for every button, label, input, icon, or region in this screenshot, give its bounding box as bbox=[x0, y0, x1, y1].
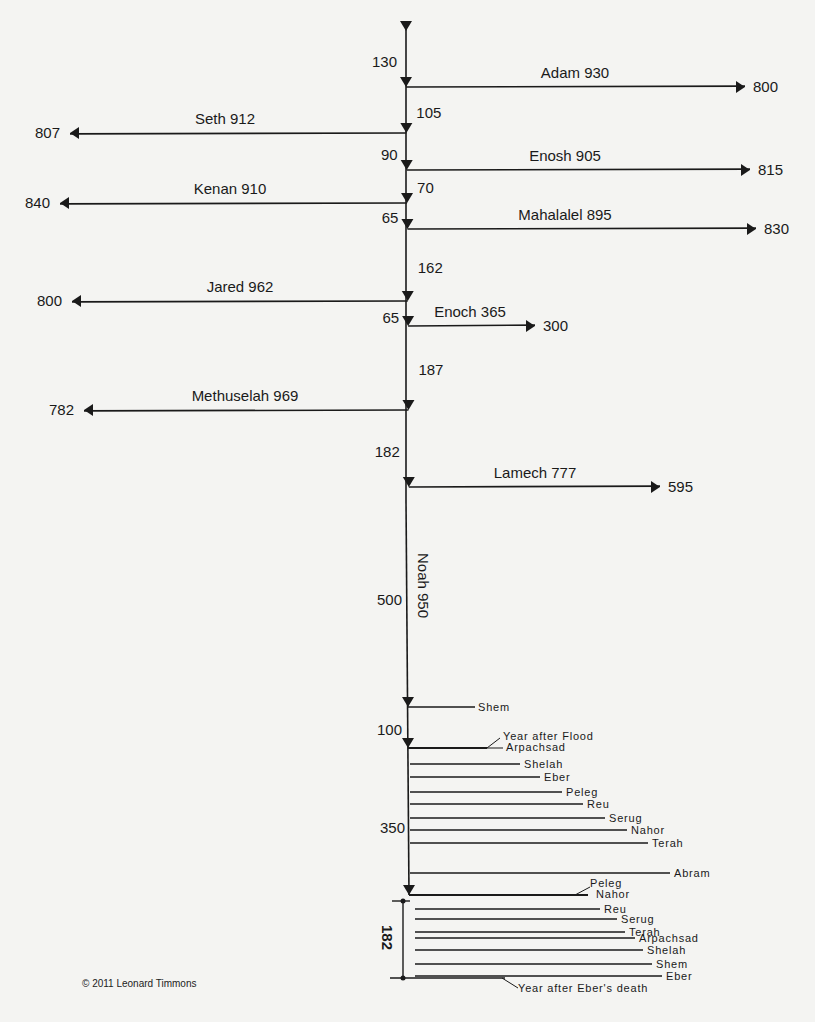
down-arrow-icon bbox=[400, 21, 412, 31]
branch-enoch: Enoch 36530065 bbox=[382, 303, 568, 334]
svg-text:Abram: Abram bbox=[674, 867, 710, 879]
year-after-ebers-death-label: Year after Eber's death bbox=[518, 982, 648, 994]
years-after-son: 840 bbox=[25, 194, 50, 211]
shem-label: Shem bbox=[478, 701, 510, 713]
years-after-son: 800 bbox=[37, 292, 62, 309]
gap-years-label: 70 bbox=[417, 179, 434, 196]
gap-years-label: 187 bbox=[418, 361, 443, 378]
gap-years-label: 65 bbox=[382, 309, 399, 326]
down-arrow-icon bbox=[402, 738, 414, 748]
branch-kenan: Kenan 91084070 bbox=[25, 179, 434, 211]
bottom-line-eber: Eber bbox=[415, 970, 692, 982]
left-arrow-icon bbox=[84, 404, 93, 416]
years-after-son: 807 bbox=[35, 124, 60, 141]
down-arrow-icon bbox=[402, 316, 414, 326]
gap-years-label: 90 bbox=[381, 146, 398, 163]
patriarch-label: Seth 912 bbox=[195, 110, 255, 127]
svg-text:Terah: Terah bbox=[652, 837, 684, 849]
left-arrow-icon bbox=[72, 295, 81, 307]
patriarch-label: Jared 962 bbox=[207, 278, 274, 295]
copyright-notice: © 2011 Leonard Timmons bbox=[82, 978, 196, 989]
branch-lamech: Lamech 777595182 bbox=[375, 443, 693, 495]
line-eber: Eber bbox=[410, 771, 570, 783]
down-arrow-icon bbox=[401, 193, 413, 203]
post-flood-lines: Year after FloodArpachsadShelahEberPeleg… bbox=[380, 730, 710, 879]
down-arrow-icon bbox=[403, 885, 415, 895]
branch-adam: Adam 930800130 bbox=[372, 53, 778, 95]
years-after-son: 595 bbox=[668, 478, 693, 495]
years-after-son: 782 bbox=[49, 401, 74, 418]
svg-text:Peleg: Peleg bbox=[566, 786, 598, 798]
right-arrow-icon bbox=[651, 481, 660, 493]
branch-mahalalel: Mahalalel 89583065 bbox=[382, 206, 789, 237]
years-after-son: 800 bbox=[753, 78, 778, 95]
line-terah: Terah bbox=[410, 837, 684, 849]
genealogy-timeline-diagram: Adam 930800130Seth 912807105Enosh 905815… bbox=[0, 0, 815, 1022]
down-arrow-icon bbox=[403, 477, 415, 487]
years-after-son: 830 bbox=[764, 220, 789, 237]
right-arrow-icon bbox=[526, 320, 535, 332]
svg-text:Serug: Serug bbox=[609, 812, 642, 824]
noah-label: Noah 950 bbox=[415, 553, 432, 618]
down-arrow-icon bbox=[402, 697, 414, 707]
patriarch-label: Lamech 777 bbox=[494, 464, 577, 481]
line-serug: Serug bbox=[410, 812, 642, 824]
gap-years-label: 182 bbox=[375, 443, 400, 460]
nahor-label: Nahor bbox=[596, 888, 630, 900]
svg-text:Shelah: Shelah bbox=[524, 758, 563, 770]
right-arrow-icon bbox=[736, 81, 745, 93]
line-peleg: Peleg bbox=[410, 786, 598, 798]
svg-text:Serug: Serug bbox=[621, 913, 654, 925]
line-nahor: Nahor bbox=[410, 824, 665, 836]
gap-years-label: 162 bbox=[418, 259, 443, 276]
line-abram: Abram bbox=[410, 867, 710, 879]
svg-text:Reu: Reu bbox=[587, 798, 610, 810]
line-reu: Reu bbox=[410, 798, 610, 810]
patriarch-label: Enoch 365 bbox=[434, 303, 506, 320]
left-arrow-icon bbox=[60, 197, 69, 209]
gap-years-label: 350 bbox=[380, 819, 405, 836]
arpachsad-label: Arpachsad bbox=[506, 741, 566, 753]
right-arrow-icon bbox=[747, 223, 756, 235]
bottom-line-terah: Terah bbox=[415, 926, 661, 938]
bottom-line-arpachsad: Arpachsad bbox=[415, 932, 699, 944]
bottom-line-shem: Shem bbox=[415, 958, 688, 970]
svg-text:Shelah: Shelah bbox=[647, 944, 686, 956]
left-arrow-icon bbox=[70, 127, 79, 139]
gap-years-label: 105 bbox=[416, 104, 441, 121]
noah-section: 500Noah 950Shem100 bbox=[377, 553, 510, 738]
gap-years-label: 65 bbox=[382, 209, 399, 226]
patriarch-label: Kenan 910 bbox=[194, 180, 267, 197]
branch-methuselah: Methuselah 969782187 bbox=[49, 361, 444, 418]
branch-jared: Jared 962800162 bbox=[37, 259, 443, 309]
bottom-line-reu: Reu bbox=[415, 903, 627, 915]
gap-years-label: 500 bbox=[377, 591, 402, 608]
branch-seth: Seth 912807105 bbox=[35, 104, 441, 141]
svg-text:Arpachsad: Arpachsad bbox=[639, 932, 699, 944]
down-arrow-icon bbox=[400, 123, 412, 133]
gap-years-label: 130 bbox=[372, 53, 397, 70]
down-arrow-icon bbox=[402, 291, 414, 301]
patriarch-label: Adam 930 bbox=[541, 64, 609, 81]
down-arrow-icon bbox=[401, 219, 413, 229]
patriarch-label: Enosh 905 bbox=[529, 147, 601, 164]
line-shelah: Shelah bbox=[410, 758, 563, 770]
bottom-line-shelah: Shelah bbox=[415, 944, 686, 956]
down-arrow-icon bbox=[400, 77, 412, 87]
down-arrow-icon bbox=[401, 160, 413, 170]
svg-text:Nahor: Nahor bbox=[631, 824, 665, 836]
down-arrow-icon bbox=[402, 400, 414, 410]
patriarch-label: Mahalalel 895 bbox=[518, 206, 611, 223]
svg-text:Eber: Eber bbox=[544, 771, 570, 783]
years-after-son: 300 bbox=[543, 317, 568, 334]
gap-years-label: 100 bbox=[377, 721, 402, 738]
bracket-182-label: 182 bbox=[379, 925, 396, 950]
svg-text:Shem: Shem bbox=[656, 958, 688, 970]
patriarch-label: Methuselah 969 bbox=[192, 387, 299, 404]
bottom-bracket-section: PelegNahor182ReuSerugTerahArpachsadShela… bbox=[379, 877, 699, 994]
branch-enosh: Enosh 90581590 bbox=[381, 146, 783, 178]
right-arrow-icon bbox=[741, 164, 750, 176]
years-after-son: 815 bbox=[758, 161, 783, 178]
svg-text:Eber: Eber bbox=[666, 970, 692, 982]
